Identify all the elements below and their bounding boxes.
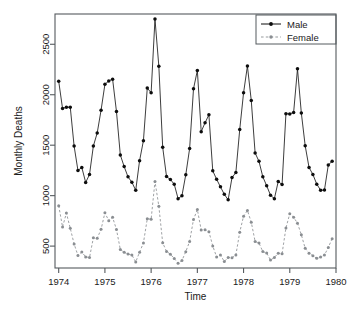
data-point [88,173,92,177]
data-point [223,193,227,197]
data-point [311,173,315,177]
legend-marker-sample [269,22,273,26]
data-point [161,241,164,244]
data-point [192,87,196,91]
data-point [88,256,91,259]
data-point [92,236,95,239]
data-point [319,188,323,192]
data-point [199,130,203,134]
data-point [296,67,300,71]
y-tick-label: 2500 [41,34,52,55]
data-point [180,259,183,262]
data-point [250,99,254,103]
data-point [226,198,230,202]
x-tick-label: 1976 [141,276,162,287]
data-point [153,180,156,183]
data-point [203,121,207,125]
data-point [234,171,238,175]
data-point [200,228,203,231]
data-point [269,193,273,197]
data-point [323,254,326,257]
data-point [327,246,330,249]
data-point [215,256,218,259]
legend-label: Female [287,32,319,43]
data-point [196,69,200,73]
data-point [165,175,169,179]
data-point [308,252,311,255]
data-point [277,252,280,255]
data-point [177,262,180,265]
data-point [219,254,222,257]
x-tick-label: 1980 [325,276,346,287]
data-point [73,242,76,245]
data-point [149,91,153,95]
data-point [111,78,115,82]
x-tick-label: 1977 [187,276,208,287]
data-point [123,251,126,254]
data-point [265,184,269,188]
data-point [65,212,68,215]
data-point [138,159,142,163]
data-point [257,242,260,245]
data-point [223,260,226,263]
data-point [146,217,149,220]
data-point [122,165,126,169]
data-point [330,159,334,163]
data-point [157,64,161,68]
data-point [169,178,173,182]
x-tick-label: 1978 [233,276,254,287]
chart-canvas: 1974197519761977197819791980 50010001500… [0,0,360,321]
data-point [234,254,237,257]
data-point [130,253,133,256]
data-point [261,250,264,253]
data-point [65,105,69,109]
data-point [127,253,130,256]
y-tick-label: 1500 [41,135,52,156]
data-point [284,227,287,230]
data-point [103,83,107,87]
data-point [288,212,291,215]
data-point [176,197,180,201]
x-tick-label: 1979 [279,276,300,287]
data-point [165,250,168,253]
data-point [80,251,83,254]
data-point [61,107,65,111]
data-point [319,255,322,258]
data-point [315,182,319,186]
data-point [69,105,73,109]
data-point [215,178,219,182]
data-point [207,113,211,117]
data-point [95,131,99,135]
data-point [238,128,242,132]
data-point [188,147,192,151]
data-point [119,248,122,251]
data-point [103,211,106,214]
data-point [276,180,280,184]
data-point [323,188,327,192]
data-point [134,260,137,263]
data-point [211,169,215,173]
data-point [246,209,249,212]
data-point [57,79,61,83]
data-point [253,151,257,155]
data-point [315,257,318,260]
data-point [115,228,118,231]
data-point [92,144,96,148]
data-point [292,111,296,115]
data-point [119,153,123,157]
data-point [188,240,191,243]
data-point [84,181,88,185]
data-point [184,173,188,177]
data-point [107,219,110,222]
data-point [219,185,223,189]
data-point [134,189,138,193]
data-point [84,255,87,258]
data-point [227,256,230,259]
data-point [76,169,80,173]
data-point [196,208,199,211]
data-point [269,259,272,262]
data-point [292,216,295,219]
data-point [69,227,72,230]
y-axis-title: Monthly Deaths [13,106,24,175]
legend-marker-sample [269,35,272,38]
